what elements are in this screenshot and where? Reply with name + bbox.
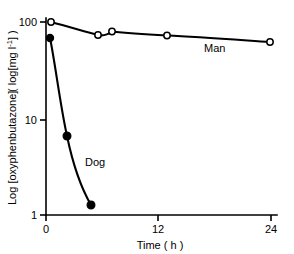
y-axis-ticks: 100 10 1 <box>19 16 46 221</box>
dog-series-label: Dog <box>85 156 105 168</box>
y-axis-units-exponent: -1 <box>5 40 14 47</box>
y-axis-title-main: Log [oxyphenbutazone] <box>6 91 18 205</box>
chart-figure: 100 10 1 0 12 24 Time ( h ) Log [oxyphen… <box>0 0 294 254</box>
y-axis-title: Log [oxyphenbutazone] ( log[mg l-1] ) <box>5 30 18 205</box>
x-tick-label-12: 12 <box>152 223 164 235</box>
man-series-label: Man <box>204 42 225 54</box>
y-tick-label-100: 100 <box>19 16 37 28</box>
y-tick-label-10: 10 <box>25 114 37 126</box>
man-point-5 <box>267 39 273 45</box>
dog-point-1 <box>46 34 53 41</box>
man-curve-line <box>51 22 270 42</box>
x-tick-label-0: 0 <box>43 223 49 235</box>
x-tick-label-24: 24 <box>265 223 277 235</box>
dog-curve-line <box>50 38 91 205</box>
man-point-1 <box>48 19 54 25</box>
dog-point-2 <box>63 132 71 140</box>
semilog-plot: 100 10 1 0 12 24 Time ( h ) Log [oxyphen… <box>0 0 294 254</box>
y-axis-units-tail: ] ) <box>6 30 18 40</box>
series-dog: Dog <box>46 34 105 209</box>
man-point-4 <box>164 32 170 38</box>
man-point-2 <box>95 32 101 38</box>
x-axis-ticks: 0 12 24 <box>43 215 277 235</box>
y-tick-label-1: 1 <box>31 209 37 221</box>
dog-point-3 <box>87 201 95 209</box>
y-axis-units-head: ( log[mg l <box>6 47 18 92</box>
man-point-3 <box>109 28 115 34</box>
series-man: Man <box>48 19 273 54</box>
x-axis-title: Time ( h ) <box>137 239 184 251</box>
y-axis-title-units: ( log[mg l-1] ) <box>5 30 18 92</box>
